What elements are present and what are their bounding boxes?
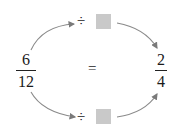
fraction-bar xyxy=(155,70,167,71)
right-fraction: 2 4 xyxy=(155,52,167,90)
right-denominator: 4 xyxy=(155,74,167,90)
equals-sign: = xyxy=(88,61,96,76)
left-numerator: 6 xyxy=(16,52,36,68)
right-numerator: 2 xyxy=(155,52,167,68)
top-blank-box xyxy=(96,14,111,29)
left-fraction: 6 12 xyxy=(16,52,36,90)
left-denominator: 12 xyxy=(16,74,36,90)
fraction-bar xyxy=(16,70,36,71)
arrow-top-left xyxy=(31,24,74,50)
top-divide-operator: ÷ xyxy=(77,14,85,29)
arrow-top-right xyxy=(117,23,157,48)
bottom-divide-operator: ÷ xyxy=(77,110,85,125)
arrow-bottom-right xyxy=(117,94,157,117)
arrow-bottom-left xyxy=(31,92,75,117)
bottom-blank-box xyxy=(96,109,111,124)
